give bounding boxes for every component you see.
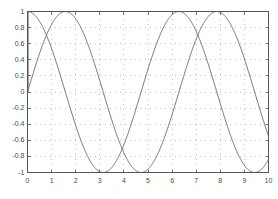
- y-tick-label: -0.4: [12, 120, 24, 127]
- x-tick-label: 4: [114, 177, 134, 184]
- x-tick-label: 5: [138, 177, 158, 184]
- y-tick-label: 0: [21, 88, 25, 95]
- plot-svg: [0, 0, 277, 199]
- y-tick-label: -0.6: [12, 136, 24, 143]
- y-tick-label: 0.8: [15, 24, 25, 31]
- y-tick-label: 0.2: [15, 72, 25, 79]
- y-tick-label: -1: [18, 169, 24, 176]
- x-tick-label: 7: [186, 177, 206, 184]
- y-tick-label: 0.6: [15, 40, 25, 47]
- x-tick-label: 0: [18, 177, 38, 184]
- y-tick-label: 0.4: [15, 56, 25, 63]
- x-tick-label: 9: [234, 177, 254, 184]
- figure-canvas: -1-0.8-0.6-0.4-0.200.20.40.60.81 0123456…: [0, 0, 277, 199]
- x-tick-label: 1: [42, 177, 62, 184]
- x-tick-label: 6: [162, 177, 182, 184]
- x-tick-label: 10: [259, 177, 278, 184]
- x-tick-label: 8: [210, 177, 230, 184]
- x-tick-label: 3: [90, 177, 110, 184]
- y-tick-label: -0.2: [12, 104, 24, 111]
- grid-lines: [28, 12, 269, 173]
- x-tick-label: 2: [66, 177, 86, 184]
- y-tick-label: -0.8: [12, 152, 24, 159]
- y-tick-label: 1: [21, 8, 25, 15]
